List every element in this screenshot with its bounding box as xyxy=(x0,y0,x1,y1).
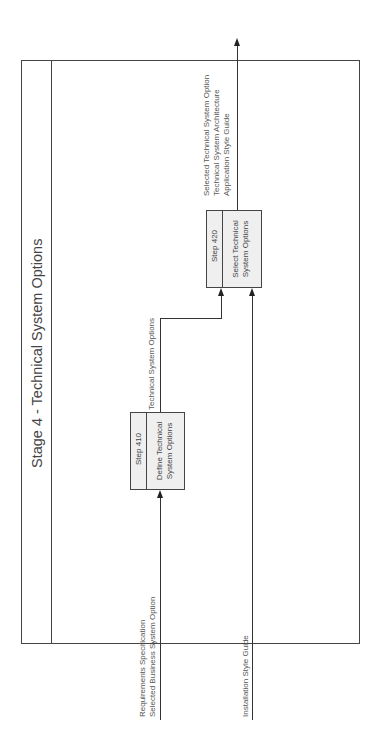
intermediate-label-technical-system-options: Technical System Options xyxy=(147,318,157,410)
connector-410-horizontal xyxy=(160,318,222,319)
output-line-step420 xyxy=(237,46,238,210)
stage-frame xyxy=(21,60,360,644)
step-410-divider xyxy=(146,413,147,489)
step-420-id: Step 420 xyxy=(210,230,220,262)
step-420-divider xyxy=(222,211,223,287)
arrow-head-output xyxy=(234,38,240,46)
step-410-id: Step 410 xyxy=(134,433,144,465)
input-line-step410 xyxy=(160,497,161,720)
step-410-name-line2: System Options xyxy=(165,414,175,488)
title-divider xyxy=(51,60,52,644)
connector-410-up xyxy=(160,318,161,412)
connector-420-up xyxy=(221,295,222,319)
arrow-head-installation-style-guide xyxy=(249,288,255,296)
step-420-name-line2: System Options xyxy=(241,212,251,286)
output-label-technical-architecture: Technical System Architecture xyxy=(212,89,222,196)
arrow-head-step410-input xyxy=(157,490,163,498)
arrow-head-step420-input xyxy=(218,288,224,296)
output-label-application-style-guide: Application Style Guide xyxy=(222,113,232,196)
output-label-selected-technical-option: Selected Technical System Option xyxy=(202,75,212,196)
step-420-name-line1: Select Technical xyxy=(231,212,241,286)
input-label-installation-style-guide: Installation Style Guide xyxy=(241,635,251,717)
input-label-selected-business-option: Selected Business System Option xyxy=(148,596,158,717)
input-line-installation-style-guide xyxy=(252,295,253,720)
input-label-requirements-spec: Requirements Specification xyxy=(138,620,148,717)
step-410-name-line1: Define Technical xyxy=(155,414,165,488)
stage-title: Stage 4 - Technical System Options xyxy=(29,239,45,468)
